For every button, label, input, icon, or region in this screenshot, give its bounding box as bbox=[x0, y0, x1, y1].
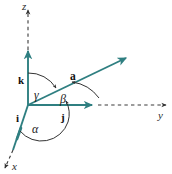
angle-arc-alpha-path bbox=[20, 122, 68, 141]
angle-label-gamma: γ bbox=[34, 89, 39, 101]
axis-label-z: z bbox=[22, 1, 26, 12]
angle-label-alpha: α bbox=[32, 123, 38, 135]
angle-arc-beta-path bbox=[72, 82, 99, 98]
unit-vector-label-k: k bbox=[18, 75, 24, 86]
figure-canvas bbox=[0, 0, 172, 174]
angle-arc-beta bbox=[72, 82, 99, 98]
vector-label-a: a bbox=[70, 71, 76, 83]
angle-arc-gamma-path bbox=[28, 73, 56, 88]
unit-vector-label-i: i bbox=[16, 113, 19, 124]
angle-label-beta: β bbox=[60, 93, 66, 105]
angle-arc-gamma bbox=[28, 73, 56, 88]
axis-label-y: y bbox=[158, 110, 163, 121]
vector-a-line bbox=[28, 58, 126, 105]
vector-direction-angles-figure: z y x k i j a γ β α bbox=[0, 0, 172, 174]
axis-label-x: x bbox=[12, 161, 17, 172]
unit-vector-label-j: j bbox=[61, 112, 65, 123]
vector-a bbox=[28, 58, 126, 105]
